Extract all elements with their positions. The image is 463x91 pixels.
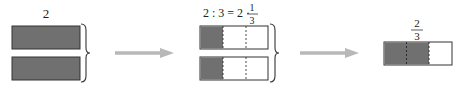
fraction-division-diagram: 2 2 : 3 = 2 · 1 3 2 3 — [0, 0, 463, 91]
step2-group: 2 : 3 = 2 · 1 3 — [200, 2, 279, 82]
equation-text: 2 : 3 = 2 · — [203, 6, 250, 20]
arrow-right-icon — [300, 48, 359, 58]
brace-icon — [270, 24, 279, 82]
shaded-third-2 — [201, 58, 224, 80]
whole-bar-2 — [12, 57, 80, 80]
result-numerator: 2 — [414, 17, 420, 29]
fraction-denominator: 3 — [250, 15, 255, 26]
step3-group: 2 3 — [384, 17, 452, 65]
arrow-right-icon — [115, 48, 174, 58]
step1-label: 2 — [43, 6, 50, 21]
whole-bar-1 — [12, 26, 80, 49]
step1-group: 2 — [12, 6, 90, 82]
fraction-numerator: 1 — [250, 2, 255, 13]
shaded-two-thirds — [385, 43, 430, 65]
brace-icon — [81, 24, 90, 82]
result-denominator: 3 — [414, 30, 420, 42]
shaded-third-1 — [201, 27, 224, 49]
